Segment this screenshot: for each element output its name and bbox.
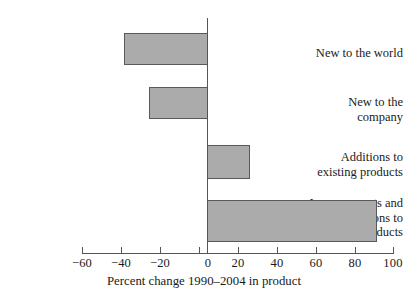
x-axis-title: Percent change 1990–2004 in product <box>0 273 408 289</box>
x-tick-label-8: 100 <box>373 256 408 271</box>
x-tick-6 <box>316 247 317 254</box>
x-tick-label-0: −60 <box>62 256 102 271</box>
x-tick-label-5: 40 <box>257 256 297 271</box>
category-label-new-to-world: New to the world <box>304 46 408 61</box>
x-tick-label-6: 60 <box>296 256 336 271</box>
bar-chart-figure: New to the world New to thecompany Addit… <box>0 0 408 294</box>
x-tick-3 <box>199 247 200 254</box>
plot-area: New to the world New to thecompany Addit… <box>0 0 408 294</box>
x-tick-2 <box>160 247 161 254</box>
x-tick-label-2: −20 <box>140 256 180 271</box>
x-tick-8 <box>393 247 394 254</box>
bar-new-to-world <box>124 33 208 65</box>
x-tick-5 <box>277 247 278 254</box>
x-tick-label-7: 80 <box>335 256 375 271</box>
x-tick-4 <box>238 247 239 254</box>
x-tick-0 <box>82 247 83 254</box>
x-tick-label-4: 20 <box>218 256 258 271</box>
y-axis-line <box>207 18 208 254</box>
bar-additions <box>207 145 250 179</box>
category-label-new-to-company: New to thecompany <box>304 95 408 124</box>
x-tick-1 <box>121 247 122 254</box>
bar-improvements <box>207 200 377 242</box>
x-tick-label-1: −40 <box>101 256 141 271</box>
category-label-additions: Additions toexisting products <box>304 150 408 179</box>
bar-new-to-company <box>149 87 208 119</box>
x-tick-7 <box>355 247 356 254</box>
